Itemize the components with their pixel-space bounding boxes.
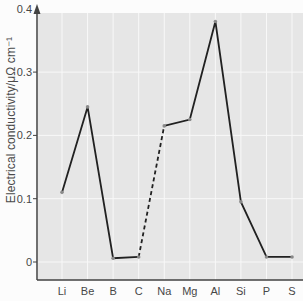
x-tick-label-B: B — [109, 285, 116, 297]
data-point-P — [265, 255, 269, 259]
y-tick-label-0.2: 0.2 — [17, 129, 32, 141]
data-point-Li — [60, 191, 64, 195]
y-axis-tick-labels: 00.10.20.30.4 — [0, 0, 32, 301]
x-tick-label-Mg: Mg — [182, 285, 197, 297]
y-tick-label-0.4: 0.4 — [17, 3, 32, 15]
data-point-B — [111, 256, 115, 260]
x-tick-label-Li: Li — [58, 285, 67, 297]
x-tick-label-Si: Si — [236, 285, 246, 297]
y-axis-arrowhead-icon — [34, 4, 41, 14]
x-axis-labels: LiBeBCNaMgAlSiPS — [0, 285, 303, 301]
data-point-S — [290, 255, 294, 259]
data-point-Mg — [188, 118, 192, 122]
data-point-Be — [86, 105, 90, 109]
x-tick-label-Na: Na — [157, 285, 171, 297]
plot-area — [0, 0, 303, 301]
data-point-C — [137, 255, 141, 259]
y-tick-label-0: 0 — [26, 256, 32, 268]
y-tick-label-0.1: 0.1 — [17, 193, 32, 205]
x-tick-label-P: P — [263, 285, 270, 297]
plot-background — [38, 13, 303, 280]
y-tick-label-0.3: 0.3 — [17, 66, 32, 78]
data-point-Al — [214, 20, 218, 24]
x-tick-label-Be: Be — [81, 285, 94, 297]
data-point-Na — [162, 124, 166, 128]
x-tick-label-S: S — [288, 285, 295, 297]
x-tick-label-Al: Al — [210, 285, 220, 297]
conductivity-chart: Electrical conductivity/μΩ cm⁻¹ 00.10.20… — [0, 0, 303, 301]
x-tick-label-C: C — [135, 285, 143, 297]
data-point-Si — [239, 200, 243, 204]
